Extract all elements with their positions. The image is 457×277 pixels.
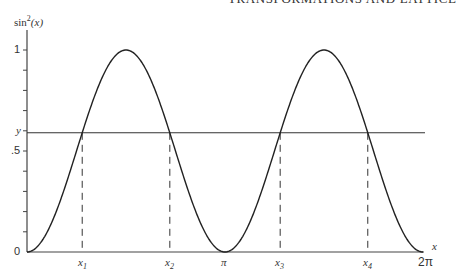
dashed-verticals: [82, 133, 368, 252]
x4-label: x4: [363, 256, 372, 271]
x1-label: x1: [78, 256, 87, 271]
sin-squared-curve: [27, 50, 423, 252]
x3-label: x3: [275, 256, 284, 271]
x-axis-var-label: x: [432, 240, 437, 252]
y-tick-label-half: .5: [11, 144, 20, 156]
y-axis-title: sin2(x): [14, 14, 43, 28]
y-line-label: y: [16, 124, 21, 136]
pi-label: π: [221, 256, 227, 268]
y-tick-label-1: 1: [14, 43, 20, 55]
y-title-base: sin: [14, 16, 27, 28]
two-pi-label: 2π: [418, 255, 433, 269]
y-title-arg: (x): [31, 16, 43, 28]
y-tick-label-0: 0: [14, 245, 20, 257]
x2-label: x2: [165, 256, 174, 271]
